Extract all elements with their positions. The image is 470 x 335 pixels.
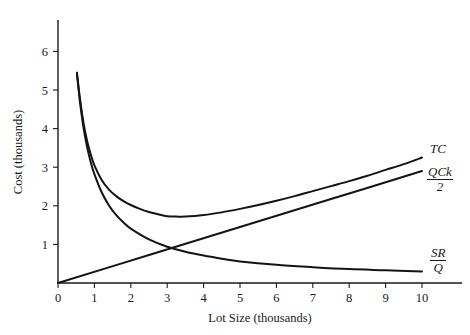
tc-curve-label: TC — [430, 142, 446, 156]
y-tick-marks — [53, 51, 58, 244]
setup-cost-label: SR Q — [430, 246, 446, 274]
tc-label-text: TC — [430, 141, 446, 156]
holding-cost-label: QCk 2 — [427, 165, 453, 193]
sr-numerator: SR — [430, 246, 446, 261]
x-tick-label-1: 1 — [91, 291, 97, 305]
sr-fraction: SR Q — [430, 246, 446, 274]
x-tick-label-10: 10 — [416, 291, 429, 305]
x-tick-label-9: 9 — [382, 291, 388, 305]
x-tick-label-0: 0 — [55, 291, 61, 305]
x-tick-marks — [58, 283, 422, 288]
qck-fraction: QCk 2 — [427, 165, 453, 193]
x-tick-label-3: 3 — [164, 291, 170, 305]
y-tick-label-3: 3 — [42, 161, 48, 175]
chart-canvas: 012345678910 123456 Lot Size (thousands)… — [0, 0, 470, 335]
x-tick-label-5: 5 — [237, 291, 243, 305]
y-tick-label-4: 4 — [42, 122, 49, 136]
x-tick-label-7: 7 — [310, 291, 316, 305]
x-axis-title: Lot Size (thousands) — [208, 311, 311, 325]
y-axis-title: Cost (thousands) — [11, 110, 25, 194]
curve-qck-2 — [58, 171, 422, 283]
x-tick-labels: 012345678910 — [55, 291, 428, 305]
y-tick-label-2: 2 — [42, 199, 48, 213]
sr-denominator: Q — [430, 261, 446, 275]
x-tick-label-2: 2 — [128, 291, 134, 305]
x-tick-label-6: 6 — [273, 291, 279, 305]
series-curves — [58, 73, 422, 283]
y-tick-labels: 123456 — [42, 45, 49, 252]
curve-sr-q — [77, 74, 422, 272]
axes-group — [58, 20, 462, 283]
curve-tc — [77, 73, 422, 217]
x-tick-label-8: 8 — [346, 291, 352, 305]
y-tick-label-5: 5 — [42, 84, 48, 98]
y-tick-label-1: 1 — [42, 238, 48, 252]
qck-denominator: 2 — [427, 180, 453, 194]
y-tick-label-6: 6 — [42, 45, 48, 59]
inventory-cost-chart: 012345678910 123456 Lot Size (thousands)… — [0, 0, 470, 335]
x-tick-label-4: 4 — [200, 291, 207, 305]
qck-numerator: QCk — [427, 165, 453, 180]
